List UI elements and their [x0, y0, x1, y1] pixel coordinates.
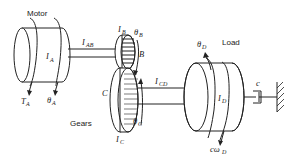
load-label: Load — [222, 38, 240, 47]
svg-text:θ: θ — [134, 27, 138, 37]
label-IAB: I AB — [81, 37, 94, 48]
label-C: C — [102, 88, 108, 98]
svg-text:CD: CD — [159, 81, 168, 87]
svg-text:θ: θ — [197, 39, 201, 49]
svg-text:θ: θ — [133, 116, 137, 126]
label-IB: I B — [117, 24, 126, 35]
svg-text:A: A — [51, 100, 56, 106]
torque-arrow-TA — [27, 82, 32, 96]
svg-text:c: c — [256, 78, 260, 88]
svg-text:B: B — [122, 29, 126, 35]
svg-text:θ: θ — [47, 95, 51, 105]
svg-text:C: C — [102, 88, 108, 98]
svg-text:B: B — [139, 32, 143, 38]
svg-text:C: C — [138, 121, 143, 127]
label-ICD: I CD — [154, 76, 168, 87]
gear-B — [115, 35, 135, 69]
svg-text:C: C — [120, 139, 125, 145]
svg-text:D: D — [201, 44, 207, 50]
angle-arrow-thetaA — [53, 82, 58, 96]
label-cwD: cω D — [210, 144, 227, 155]
label-IC: I C — [115, 134, 125, 145]
damper — [244, 91, 277, 103]
mechanical-system-diagram: Motor Load Gears I A I AB I B θ B B C I … — [0, 0, 299, 159]
gears-label: Gears — [70, 119, 92, 128]
label-thetaD: θ D — [197, 39, 207, 50]
label-c: c — [256, 78, 260, 88]
svg-text:AB: AB — [85, 42, 94, 48]
shaft-AB — [68, 49, 116, 57]
svg-text:D: D — [221, 98, 227, 104]
svg-text:B: B — [139, 49, 144, 59]
motor-label: Motor — [27, 9, 48, 18]
svg-text:D: D — [221, 149, 227, 155]
label-thetaA: θ A — [47, 95, 56, 106]
ground — [277, 82, 284, 112]
motor-inertia — [14, 18, 70, 86]
label-thetaB: θ B — [134, 27, 143, 38]
load-inertia — [184, 58, 244, 140]
svg-text:cω: cω — [210, 144, 220, 154]
svg-text:A: A — [25, 101, 30, 107]
svg-text:A: A — [49, 57, 54, 63]
label-B: B — [139, 49, 144, 59]
label-TA: T A — [21, 96, 30, 107]
angle-arrow-thetaC — [138, 78, 143, 125]
label-IA: I A — [45, 51, 54, 63]
